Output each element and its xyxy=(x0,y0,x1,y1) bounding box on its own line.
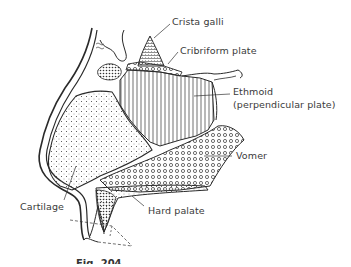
crista-galli-shape xyxy=(138,36,164,66)
nasal-septum-diagram: Crista galli Cribriform plate Ethmoid (p… xyxy=(0,0,351,267)
nasal-bone-cluster xyxy=(98,64,122,80)
leader-cribriform xyxy=(168,52,178,64)
label-hard-palate: Hard palate xyxy=(148,205,205,216)
label-ethmoid: Ethmoid xyxy=(233,86,273,97)
label-ethmoid-subtitle: (perpendicular plate) xyxy=(233,99,336,110)
label-cribriform-plate: Cribriform plate xyxy=(180,45,257,56)
label-crista-galli: Crista galli xyxy=(172,16,224,27)
label-vomer: Vomer xyxy=(236,150,267,161)
leader-hard-palate xyxy=(132,196,144,206)
label-cartilage: Cartilage xyxy=(20,201,64,212)
nasal-septum-illustration xyxy=(0,0,351,267)
leader-crista-galli xyxy=(154,24,170,38)
